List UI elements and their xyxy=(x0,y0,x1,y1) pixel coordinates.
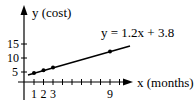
equation-label: y = 1.2x + 3.8 xyxy=(101,25,174,40)
y-tick-label-5: 5 xyxy=(12,65,18,79)
x-tick-label-2: 2 xyxy=(41,87,47,101)
y-axis-arrow-icon xyxy=(21,5,28,15)
y-axis-label: y (cost) xyxy=(32,5,71,20)
x-tick-label-3: 3 xyxy=(50,87,56,101)
y-tick-label-15: 15 xyxy=(7,37,19,51)
x-axis-label: x (months) xyxy=(137,75,194,90)
y-tick-label-10: 10 xyxy=(7,51,19,65)
x-tick-label-1: 1 xyxy=(31,87,37,101)
x-tick-label-9: 9 xyxy=(107,87,113,101)
x-axis-arrow-icon xyxy=(123,79,133,86)
chart: 1 2 3 9 5 10 15 y (cost) x (months) y = … xyxy=(0,0,195,108)
